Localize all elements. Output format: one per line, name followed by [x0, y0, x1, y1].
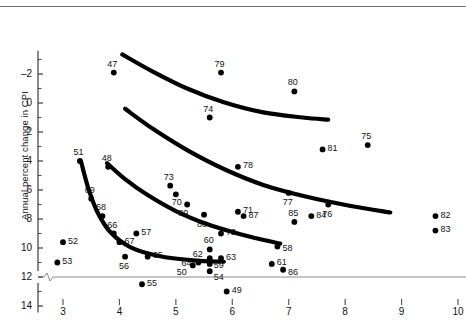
data-point: [433, 228, 439, 234]
data-point: [218, 231, 224, 237]
data-point-label: 81: [328, 143, 338, 153]
data-point-label: 47: [107, 59, 117, 69]
data-point: [365, 142, 371, 148]
data-point: [54, 260, 60, 266]
x-tick-label: 3: [53, 306, 73, 317]
data-point-label: 62: [193, 249, 203, 259]
data-point: [308, 213, 314, 219]
data-point: [88, 196, 94, 202]
x-tick-label: 7: [279, 306, 299, 317]
data-point-label: 87: [249, 210, 259, 220]
y-tick-label: 2: [12, 126, 32, 137]
x-tick-label: 6: [222, 306, 242, 317]
data-point: [117, 239, 123, 245]
data-point-label: 72: [226, 227, 236, 237]
data-point-label: 78: [243, 160, 253, 170]
y-tick-label: 0: [12, 97, 32, 108]
data-point: [275, 244, 281, 250]
data-point: [286, 190, 292, 196]
data-point-label: 79: [215, 59, 225, 69]
data-point-label: 65: [153, 250, 163, 260]
data-point-label: 48: [102, 153, 112, 163]
data-point-label: 53: [62, 256, 72, 266]
data-point-label: 75: [361, 131, 371, 141]
data-point-label: 84: [316, 210, 326, 220]
data-point: [145, 254, 151, 260]
data-point-label: 70: [172, 197, 182, 207]
data-point-label: 73: [164, 172, 174, 182]
data-point-label: 74: [203, 104, 213, 114]
data-point: [291, 219, 297, 225]
data-point-label: 51: [73, 147, 83, 157]
data-point-label: 52: [68, 236, 78, 246]
x-tick-label: 9: [392, 306, 412, 317]
data-point: [235, 164, 241, 170]
data-point: [100, 213, 106, 219]
data-point-label: 85: [288, 208, 298, 218]
data-point: [207, 247, 213, 253]
data-point: [280, 267, 286, 273]
data-point-label: 54: [214, 272, 224, 282]
data-point-label: 50: [177, 267, 187, 277]
x-tick-label: 8: [335, 306, 355, 317]
data-point-label: 67: [124, 236, 134, 246]
data-point: [433, 213, 439, 219]
y-tick-label: 14: [12, 300, 32, 311]
data-point: [207, 115, 213, 121]
data-point-label: 59: [214, 260, 224, 270]
curve-1974-1977: [125, 109, 390, 213]
data-point: [235, 209, 241, 215]
y-tick-label: 10: [12, 242, 32, 253]
data-point: [269, 261, 275, 267]
y-tick-label: 4: [12, 155, 32, 166]
data-point: [207, 268, 213, 274]
curve-1970-1973: [107, 163, 280, 243]
data-point-label: 86: [288, 267, 298, 277]
data-point: [167, 183, 173, 189]
phillips-curve-chart: Annual percent change in CPI 14121086420…: [0, 0, 466, 324]
data-point: [196, 260, 202, 266]
data-point-label: 66: [107, 220, 117, 230]
data-point-label: 80: [288, 77, 298, 87]
data-point: [320, 147, 326, 153]
data-point: [207, 255, 213, 261]
data-point-label: 58: [282, 243, 292, 253]
data-point: [325, 202, 331, 208]
data-point: [122, 254, 128, 260]
data-point-label: 89: [178, 208, 188, 218]
data-point: [139, 281, 145, 287]
data-point: [77, 158, 83, 164]
data-point-label: 61: [277, 257, 287, 267]
data-point-label: 88: [197, 219, 207, 229]
y-tick-label: 6: [12, 184, 32, 195]
data-point-label: 69: [85, 185, 95, 195]
y-tick-label: 8: [12, 213, 32, 224]
y-tick-label: 12: [12, 271, 32, 282]
data-point-label: 68: [96, 202, 106, 212]
data-point: [207, 261, 213, 267]
data-point: [111, 231, 117, 237]
data-point: [111, 70, 117, 76]
data-point-label: 49: [232, 285, 242, 295]
data-point-label: 83: [440, 224, 450, 234]
data-point-label: 63: [226, 252, 236, 262]
x-tick-label: 10: [448, 306, 466, 317]
data-point: [224, 289, 230, 295]
data-point-label: 55: [147, 278, 157, 288]
data-point: [105, 164, 111, 170]
data-point-label: 57: [141, 227, 151, 237]
x-tick-label: 5: [166, 306, 186, 317]
data-point: [291, 89, 297, 95]
chart-canvas: [0, 0, 466, 324]
data-point-label: 82: [440, 210, 450, 220]
data-point: [201, 212, 207, 218]
data-point: [218, 70, 224, 76]
data-point-label: 60: [204, 235, 214, 245]
data-point-label: 56: [119, 261, 129, 271]
y-tick-label: –2: [12, 68, 32, 79]
x-axis-baseline: [38, 273, 466, 281]
data-point-label: 77: [283, 197, 293, 207]
data-point: [60, 239, 66, 245]
x-tick-label: 4: [109, 306, 129, 317]
data-point-label: 64: [181, 258, 191, 268]
